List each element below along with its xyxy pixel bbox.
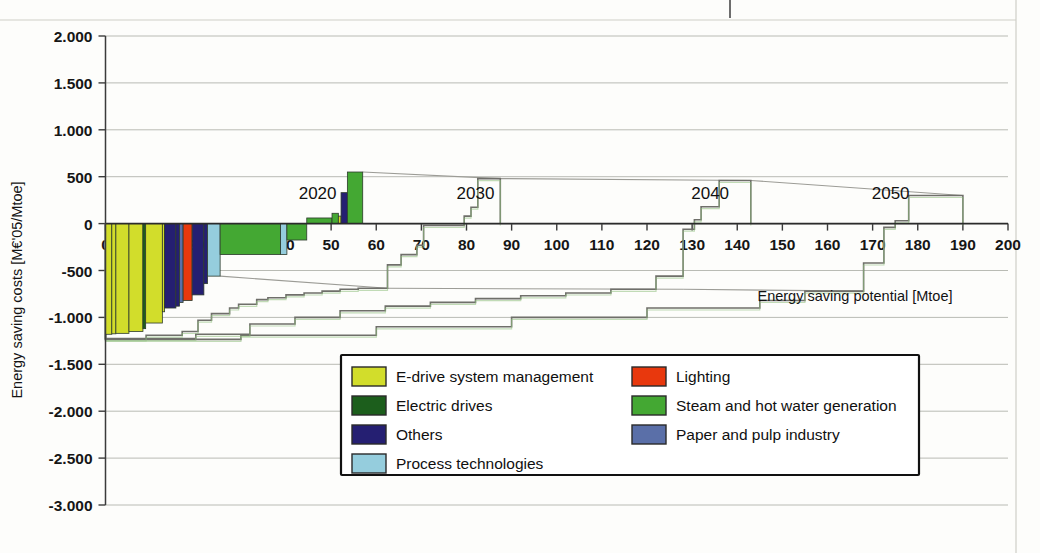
- legend-label-left-1: Electric drives: [396, 397, 493, 414]
- energy-saving-cost-curve-chart: 2.0001.5001.0005000-500-1.000-1.500-2.00…: [0, 0, 1040, 553]
- y-tick-label--2000: -2.000: [49, 403, 93, 420]
- y-tick-label-1000: 1.000: [54, 122, 93, 139]
- bar-2020-10: [183, 224, 192, 301]
- legend-swatch-right-0: [632, 367, 666, 386]
- year-label-2050: 2050: [872, 184, 910, 203]
- bar-2020-12: [204, 224, 208, 284]
- bar-2020-18: [332, 213, 338, 223]
- bar-2020-8: [176, 224, 180, 307]
- x-tick-label-110: 110: [589, 236, 614, 253]
- x-tick-label-200: 200: [995, 236, 1021, 253]
- bar-2020-5: [146, 224, 163, 323]
- x-tick-label-160: 160: [815, 236, 841, 253]
- legend-label-right-2: Paper and pulp industry: [676, 426, 840, 443]
- y-tick-label--1500: -1.500: [49, 356, 93, 373]
- bar-2020-1: [112, 224, 116, 334]
- y-tick-label--1000: -1.000: [49, 309, 93, 326]
- y-tick-label--3000: -3.000: [49, 497, 93, 514]
- x-tick-label-50: 50: [323, 236, 340, 253]
- x-tick-label-90: 90: [503, 236, 520, 253]
- x-tick-label-80: 80: [458, 236, 475, 253]
- bar-2020-17: [307, 218, 332, 224]
- bar-2020-7: [165, 224, 176, 308]
- chart-figure: 2.0001.5001.0005000-500-1.000-1.500-2.00…: [0, 0, 1040, 553]
- y-axis-title: Energy saving costs [M€'05/Mtoe]: [9, 181, 25, 398]
- legend-label-right-0: Lighting: [676, 368, 730, 385]
- legend-label-left-0: E-drive system management: [396, 368, 594, 385]
- bar-2020-15: [281, 224, 287, 255]
- legend-swatch-left-3: [352, 454, 386, 473]
- bar-2020-16: [287, 224, 307, 240]
- bar-2020-3: [129, 224, 143, 332]
- x-tick-label-100: 100: [544, 236, 570, 253]
- x-tick-label-170: 170: [860, 236, 886, 253]
- bar-2020-11: [192, 224, 204, 295]
- bar-2020-4: [143, 224, 146, 329]
- x-axis-title: Energy saving potential [Mtoe]: [757, 288, 952, 304]
- y-tick-label--500: -500: [61, 263, 92, 280]
- y-tick-label-1500: 1.500: [54, 75, 93, 92]
- legend-swatch-left-1: [352, 396, 386, 415]
- legend-swatch-left-0: [352, 367, 386, 386]
- y-tick-label-0: 0: [84, 216, 93, 233]
- x-tick-label-140: 140: [724, 236, 750, 253]
- y-tick-label--2500: -2.500: [49, 450, 93, 467]
- year-label-2040: 2040: [691, 184, 729, 203]
- legend-swatch-right-1: [632, 396, 666, 415]
- x-tick-label-60: 60: [368, 236, 385, 253]
- x-tick-label-120: 120: [634, 236, 660, 253]
- bar-2020-9: [180, 224, 184, 303]
- x-tick-label-70: 70: [413, 236, 430, 253]
- bar-2020-14: [220, 224, 280, 255]
- y-tick-label-2000: 2.000: [54, 28, 93, 45]
- legend-label-left-2: Others: [396, 426, 443, 443]
- year-label-2020: 2020: [299, 184, 337, 203]
- year-label-2030: 2030: [457, 184, 495, 203]
- bar-2020-19: [338, 216, 341, 224]
- bar-2020-20: [341, 193, 347, 224]
- bar-2020-21: [347, 172, 362, 224]
- y-tick-label-500: 500: [67, 169, 93, 186]
- legend-swatch-left-2: [352, 425, 386, 444]
- bar-2020-2: [116, 224, 129, 334]
- legend-label-left-3: Process technologies: [396, 455, 544, 472]
- bar-2020-13: [207, 224, 220, 277]
- bar-2020-0: [106, 224, 112, 335]
- chart-legend: E-drive system managementElectric drives…: [341, 355, 919, 475]
- legend-swatch-right-2: [632, 425, 666, 444]
- legend-label-right-1: Steam and hot water generation: [676, 397, 897, 414]
- x-tick-label-190: 190: [950, 236, 976, 253]
- x-tick-label-150: 150: [769, 236, 795, 253]
- x-tick-label-180: 180: [905, 236, 931, 253]
